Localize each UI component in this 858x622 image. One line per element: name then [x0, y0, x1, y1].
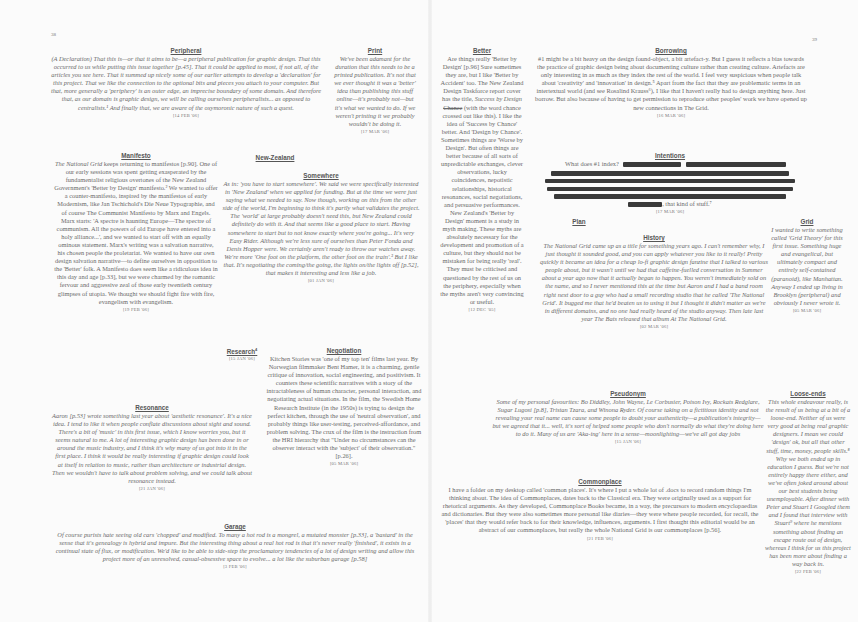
entry-date: [3 FEB '06] [52, 564, 418, 570]
entry-history: History The National Grid came up as a t… [540, 234, 768, 330]
entry-body: The National Grid came up as a title for… [540, 242, 768, 323]
entry-date: [05 MAR '06] [768, 308, 846, 314]
entry-title: Intentions [545, 152, 795, 159]
entry-body: We've been adamant for the duration that… [332, 55, 418, 128]
entry-title: Better [440, 47, 524, 54]
entry-plan: Plan [564, 218, 594, 225]
redaction-bar [628, 202, 662, 207]
entry-grid: Grid I wanted to write something called … [768, 218, 846, 314]
entry-date: [19 FEB '06] [54, 307, 218, 313]
entry-title: Peripheral [50, 47, 322, 54]
entry-body: Some of my personal favourites: Bo Diddl… [492, 398, 764, 438]
entry-loose-ends: Loose-ends This whole endeavour really, … [765, 390, 851, 575]
entry-date: [16 MAR '06] [535, 113, 807, 119]
entry-date: [12 DEC '05] [440, 307, 524, 313]
entry-date: [17 MAR '06] [332, 129, 418, 135]
left-page-number: 38 [51, 32, 56, 37]
entry-body: #1 might be a bit heavy on the design fo… [535, 55, 807, 112]
entry-body: I have a folder on my desktop called 'co… [440, 486, 760, 535]
right-page-number: 39 [812, 37, 817, 42]
entry-title: History [540, 234, 768, 241]
entry-title: Manifesto [54, 152, 218, 159]
entry-borrowing: Borrowing #1 might be a bit heavy on the… [535, 47, 807, 119]
entry-peripheral: Peripheral (A Declaration) That this is—… [50, 47, 322, 119]
entry-date: [21 FEB '06] [440, 536, 760, 542]
entry-title: Print [332, 47, 418, 54]
entry-date: [15 JAN '06] [492, 439, 764, 445]
entry-title: Plan [564, 218, 594, 225]
redaction-bar [551, 171, 789, 176]
entry-body: Aaron [p.53] wrote something last year a… [52, 412, 252, 485]
entry-intentions: Intentions What does #1 index? , that ki… [545, 152, 795, 215]
entry-date: [15 JAN '06] [222, 356, 262, 362]
entry-resonance: Resonance Aaron [p.53] wrote something l… [52, 404, 252, 492]
entry-title: Somewhere [222, 172, 420, 179]
entry-title: Loose-ends [765, 390, 851, 397]
entry-title: New-Zealand [245, 154, 305, 161]
redaction-bar [686, 162, 786, 167]
entry-date: [21 JAN '06] [52, 486, 252, 492]
entry-date: [14 FEB '06] [50, 113, 322, 119]
entry-date: [17 MAR '06] [545, 209, 795, 215]
redaction-bar [547, 187, 793, 192]
entry-garage: Garage Of course purists hate seeing old… [52, 523, 418, 570]
entry-title: Negotiation [265, 347, 423, 354]
entry-better: Better Are things really 'Better by Desi… [440, 47, 524, 313]
entry-date: [05 MAR '06] [265, 461, 423, 467]
entry-date: [01 JAN '06] [222, 278, 420, 284]
entry-body: As in: 'you have to start somewhere'. We… [222, 180, 420, 277]
entry-negotiation: Negotiation Kitchen Stories was 'one of … [265, 347, 423, 467]
entry-manifesto: Manifesto The National Grid keeps return… [54, 152, 218, 313]
redaction-bar [623, 162, 681, 167]
report-title: Success by Design [475, 95, 522, 102]
redaction-bar [554, 194, 786, 199]
redaction-bar [545, 179, 795, 184]
entry-title: Garage [52, 523, 418, 530]
entry-title: Pseudonym [492, 390, 764, 397]
entry-date: [22 FEB '06] [765, 569, 851, 575]
entry-date: [02 MAR '06] [540, 324, 768, 330]
entry-body: What does #1 index? [545, 160, 795, 168]
entry-somewhere: Somewhere As in: 'you have to start some… [222, 172, 420, 284]
entry-body: Of course purists hate seeing old cars '… [52, 531, 418, 563]
entry-title: Commonplace [440, 478, 760, 485]
entry-body: I wanted to write something called 'Grid… [768, 226, 846, 307]
entry-body: The National Grid keeps returning to man… [54, 160, 218, 306]
entry-tail: , that kind of stuff.⁷ [545, 200, 795, 208]
entry-title: Research4 [222, 347, 262, 355]
entry-title: Resonance [52, 404, 252, 411]
crossed-out-word: Chance [443, 104, 462, 111]
entry-title: Borrowing [535, 47, 807, 54]
entry-commonplace: Commonplace I have a folder on my deskto… [440, 478, 760, 542]
entry-pseudonym: Pseudonym Some of my personal favourites… [492, 390, 764, 445]
entry-research: Research4 [15 JAN '06] [222, 347, 262, 362]
entry-body: (A Declaration) That this is—or that it … [50, 55, 322, 112]
page-gutter [428, 0, 432, 622]
publication-name: The National Grid [55, 160, 102, 167]
entry-body: Are things really 'Better by Design' [p.… [440, 55, 524, 306]
entry-print: Print We've been adamant for the duratio… [332, 47, 418, 135]
magazine-spread: 38 39 Peripheral (A Declaration) That th… [0, 0, 858, 622]
entry-title: Grid [768, 218, 846, 225]
entry-body: This whole endeavour really, is the resu… [765, 398, 851, 568]
entry-new-zealand: New-Zealand [245, 154, 305, 161]
entry-body: Kitchen Stories was 'one of my top ten' … [265, 355, 423, 460]
